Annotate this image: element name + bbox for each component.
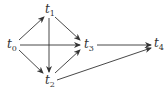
edge-t1-t3 [55, 17, 80, 40]
node-t1: t1 [45, 3, 55, 20]
edge-t2-t4 [57, 48, 151, 80]
node-t4: t4 [154, 37, 164, 54]
edge-t0-t1 [19, 17, 44, 40]
edge-t0-t2 [19, 50, 43, 73]
node-t2: t2 [45, 74, 55, 91]
node-t3: t3 [84, 38, 94, 55]
edge-t2-t3 [55, 50, 80, 73]
node-t0: t0 [7, 38, 17, 55]
